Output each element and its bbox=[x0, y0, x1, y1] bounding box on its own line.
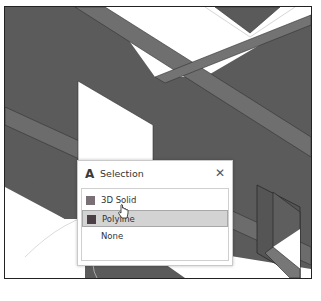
list-item-none[interactable]: None bbox=[82, 228, 228, 245]
list-item-3d-solid[interactable]: 3D Solid bbox=[82, 192, 228, 209]
selection-popup: A Selection ✕ 3D Solid Polyline None bbox=[77, 160, 233, 266]
hand-cursor-icon bbox=[118, 204, 130, 220]
selection-list: 3D Solid Polyline None bbox=[81, 188, 229, 261]
color-swatch-icon bbox=[87, 215, 96, 224]
list-item-label: None bbox=[101, 231, 123, 242]
close-icon[interactable]: ✕ bbox=[215, 166, 225, 180]
popup-header: A Selection ✕ bbox=[78, 161, 232, 187]
list-item-polyline[interactable]: Polyline bbox=[82, 210, 228, 227]
autocad-logo-icon: A bbox=[85, 167, 94, 181]
popup-title: Selection bbox=[100, 168, 144, 180]
color-swatch-icon bbox=[86, 196, 95, 205]
